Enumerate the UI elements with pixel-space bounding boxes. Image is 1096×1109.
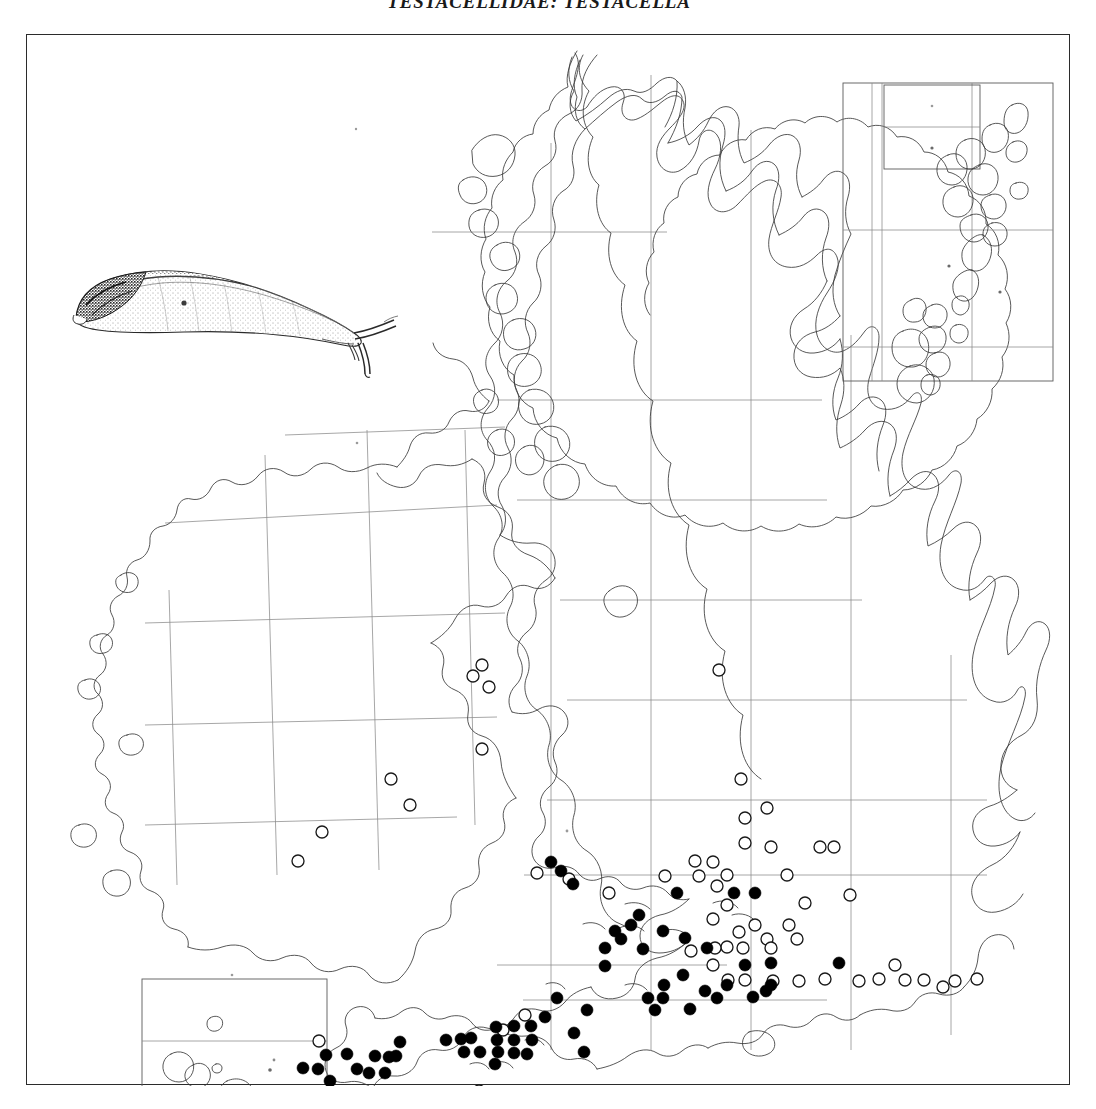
open-circle-record [519,1009,531,1021]
open-circle-record [739,974,751,986]
open-circle-record [707,913,719,925]
filled-circle-record [394,1036,406,1048]
england-wales-coast [325,535,1014,1086]
open-circle-record [739,837,751,849]
filled-circle-record [657,925,669,937]
filled-circle-record [363,1067,375,1079]
filled-circle-record [490,1021,502,1033]
open-circle-record [749,919,761,931]
filled-circle-record [699,985,711,997]
open-circle-record [899,974,911,986]
open-circle-record [473,1085,485,1086]
great-britain-coast [569,57,1050,912]
filled-circle-record [599,960,611,972]
filled-circle-record [578,1046,590,1058]
filled-circle-record [625,919,637,931]
open-circle-record [828,841,840,853]
filled-circle-record [489,1058,501,1070]
open-circle-record [721,899,733,911]
filled-circle-record [440,1034,452,1046]
open-circle-record [733,926,745,938]
filled-circle-record [721,979,733,991]
open-circle-record [707,959,719,971]
britain-mainland [481,55,627,927]
open-circle-record [467,670,479,682]
open-circle-record [292,855,304,867]
filled-circle-record [508,1034,520,1046]
ireland-detail [71,573,144,897]
filled-circle-record [633,909,645,921]
filled-circle-record [455,1033,467,1045]
filled-circle-record [526,1034,538,1046]
open-circle-record [791,933,803,945]
distribution-map [27,35,1071,1086]
open-circle-record [685,945,697,957]
filled-circle-record [599,942,611,954]
running-head: TESTACELLIDAE: TESTACELLA [0,0,1096,13]
filled-circle-record [324,1075,336,1086]
filled-circle-record [642,992,654,1004]
open-circle-record [707,856,719,868]
isle-of-man [604,586,638,617]
filled-circle-record [747,991,759,1003]
open-circle-record [819,973,831,985]
filled-circle-record [568,1027,580,1039]
open-circle-record [721,941,733,953]
filled-circle-record [671,887,683,899]
open-circle-record [918,974,930,986]
open-circle-record [844,889,856,901]
filled-circle-record [312,1063,324,1075]
filled-circle-record [474,1046,486,1058]
filled-circle-record [320,1049,332,1061]
open-circle-record [889,959,901,971]
open-circle-record [711,880,723,892]
filled-circle-record [545,856,557,868]
filled-circle-record [658,979,670,991]
scotland-coast [458,60,885,535]
open-circle-record [761,802,773,814]
filled-circle-record [567,878,579,890]
filled-circle-record [581,1004,593,1016]
open-circle-record [721,869,733,881]
open-circle-record [316,826,328,838]
filled-circle-record [555,865,567,877]
filled-circle-record [701,942,713,954]
filled-circle-record [749,887,761,899]
filled-circle-record [551,992,563,1004]
open-circle-record [313,1035,325,1047]
filled-circle-record [491,1034,503,1046]
open-circle-record [765,942,777,954]
filled-circle-record [492,1046,504,1058]
filled-circle-record [379,1067,391,1079]
open-circle-record [739,812,751,824]
filled-circle-record [341,1048,353,1060]
filled-circle-record [765,979,777,991]
filled-circle-record [508,1020,520,1032]
filled-circle-dot-layer [297,856,845,1086]
filled-circle-record [657,992,669,1004]
filled-circle-record [637,943,649,955]
filled-circle-record [297,1062,309,1074]
open-circle-record [603,887,615,899]
shetland-orkney-inset [843,83,1053,403]
open-circle-record [476,659,488,671]
open-circle-record [783,919,795,931]
page-root: TESTACELLIDAE: TESTACELLA [0,0,1096,1109]
open-circle-record [404,799,416,811]
filled-circle-record [508,1047,520,1059]
filled-circle-record [539,1011,551,1023]
open-circle-record [873,973,885,985]
filled-circle-record [677,969,689,981]
open-circle-record [713,664,725,676]
filled-circle-record [649,1004,661,1016]
filled-circle-record [728,887,740,899]
filled-circle-record [615,933,627,945]
open-circle-dot-layer [292,659,983,1086]
open-circle-record [937,981,949,993]
filled-circle-record [369,1050,381,1062]
grid-lines [145,75,987,1050]
open-circle-record [949,975,961,987]
open-circle-record [781,869,793,881]
filled-circle-record [679,932,691,944]
filled-circle-record [739,959,751,971]
